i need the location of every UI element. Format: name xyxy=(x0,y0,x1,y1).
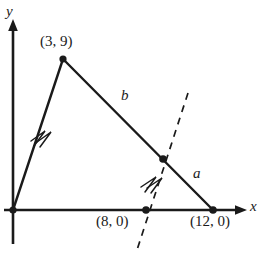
point-vertex-top xyxy=(59,55,66,62)
dashed-cevian-line xyxy=(137,93,188,250)
point-intersection xyxy=(159,155,167,163)
y-axis-label: y xyxy=(6,4,13,19)
point-label-3-9: (3, 9) xyxy=(40,34,73,49)
triangle-left-side xyxy=(13,59,63,210)
x-axis-arrowhead xyxy=(235,205,247,215)
geometry-figure: y x (3, 9) (8, 0) (12, 0) b a xyxy=(0,0,270,253)
point-label-12-0: (12, 0) xyxy=(190,214,230,229)
segment-label-a: a xyxy=(193,166,201,181)
y-axis-arrowhead xyxy=(8,19,18,31)
x-axis-label: x xyxy=(250,199,257,214)
triangle-hypotenuse xyxy=(63,59,213,210)
point-label-8-0: (8, 0) xyxy=(96,214,129,229)
point-origin xyxy=(9,206,16,213)
point-eight-zero xyxy=(142,206,150,214)
segment-label-b: b xyxy=(121,88,129,103)
